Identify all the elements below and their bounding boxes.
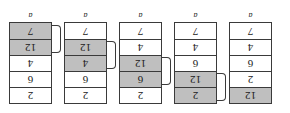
array-cell: 4 [10,55,51,71]
array-panel-1: 12 2 6 4 7 a [229,10,272,104]
array-2: 2 12 6 4 7 [174,22,217,104]
array-cell: 12 [65,39,106,55]
array-cell: 2 [120,87,161,103]
array-cell: 12 [230,87,271,103]
array-cell: 2 [230,71,271,87]
array-cell: 4 [230,39,271,55]
swap-bracket-icon [107,41,116,69]
array-panel-3: 2 6 12 4 7 a [119,10,162,104]
array-cell: 4 [65,55,106,71]
array-sequence-diagram: 12 2 6 4 7 a 2 12 6 4 7 a 2 6 12 4 7 a [0,0,290,113]
array-cell: 4 [175,39,216,55]
array-cell: 7 [120,23,161,39]
array-cell: 6 [65,71,106,87]
array-label: a [119,10,162,20]
array-1: 12 2 6 4 7 [229,22,272,104]
array-cell: 7 [65,23,106,39]
array-panel-5: 2 6 4 12 7 a [9,10,52,104]
array-cell: 6 [10,71,51,87]
array-cell: 6 [175,55,216,71]
swap-bracket-icon [162,57,171,85]
swap-bracket-icon [217,73,226,101]
array-cell: 6 [120,71,161,87]
array-4: 2 6 4 12 7 [64,22,107,104]
array-cell: 7 [175,23,216,39]
array-3: 2 6 12 4 7 [119,22,162,104]
array-panel-4: 2 6 4 12 7 a [64,10,107,104]
array-cell: 12 [175,71,216,87]
array-label: a [64,10,107,20]
array-label: a [9,10,52,20]
array-panel-2: 2 12 6 4 7 a [174,10,217,104]
array-label: a [229,10,272,20]
array-cell: 2 [175,87,216,103]
array-cell: 2 [65,87,106,103]
swap-bracket-icon [52,25,61,53]
array-5: 2 6 4 12 7 [9,22,52,104]
array-cell: 12 [120,55,161,71]
array-cell: 6 [230,55,271,71]
array-cell: 7 [230,23,271,39]
array-cell: 2 [10,87,51,103]
array-cell: 12 [10,39,51,55]
array-cell: 4 [120,39,161,55]
array-label: a [174,10,217,20]
array-cell: 7 [10,23,51,39]
